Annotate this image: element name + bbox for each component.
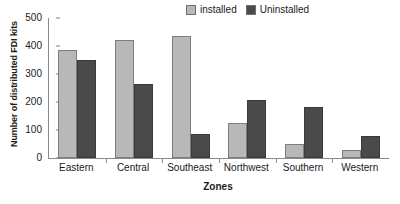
x-tick-label: Central bbox=[105, 162, 162, 173]
bar-chart-figure: Number of distributed FDI kits 500400300… bbox=[0, 0, 400, 204]
bar bbox=[191, 134, 210, 158]
bar bbox=[342, 150, 361, 158]
bar-group bbox=[162, 18, 219, 158]
bar bbox=[247, 100, 266, 158]
y-axis-tick-labels: 5004003002001000 bbox=[12, 0, 42, 204]
x-tick-label: Eastern bbox=[48, 162, 105, 173]
bar bbox=[304, 107, 323, 158]
y-tick-label: 0 bbox=[12, 153, 42, 163]
bar bbox=[134, 84, 153, 158]
y-tick-label: 400 bbox=[12, 41, 42, 51]
bar bbox=[172, 36, 191, 158]
x-axis-title: Zones bbox=[48, 181, 388, 192]
legend-item: installed bbox=[186, 4, 237, 15]
bar bbox=[228, 123, 247, 158]
bar-group bbox=[106, 18, 163, 158]
y-tick-label: 100 bbox=[12, 125, 42, 135]
bar-group bbox=[276, 18, 333, 158]
plot-area bbox=[48, 18, 389, 159]
legend: installedUninstalled bbox=[186, 4, 309, 15]
x-tick-label: Southern bbox=[275, 162, 332, 173]
x-axis-tick-labels: EasternCentralSoutheastNorthwestSouthern… bbox=[48, 162, 388, 173]
x-tick-label: Northwest bbox=[218, 162, 275, 173]
y-tick-label: 500 bbox=[12, 13, 42, 23]
x-tick-label: Western bbox=[331, 162, 388, 173]
bar bbox=[285, 144, 304, 158]
bar bbox=[77, 60, 96, 158]
bar-group bbox=[332, 18, 389, 158]
legend-swatch-icon bbox=[246, 5, 256, 15]
bar-group bbox=[219, 18, 276, 158]
legend-label: Uninstalled bbox=[260, 4, 309, 15]
y-tick-label: 200 bbox=[12, 97, 42, 107]
bar bbox=[115, 40, 134, 158]
bar bbox=[58, 50, 77, 158]
x-tick-label: Southeast bbox=[161, 162, 218, 173]
bar-group bbox=[49, 18, 106, 158]
legend-swatch-icon bbox=[186, 5, 196, 15]
legend-item: Uninstalled bbox=[246, 4, 309, 15]
legend-label: installed bbox=[200, 4, 237, 15]
bar-groups bbox=[49, 18, 389, 158]
y-tick-label: 300 bbox=[12, 69, 42, 79]
bar bbox=[361, 136, 380, 158]
